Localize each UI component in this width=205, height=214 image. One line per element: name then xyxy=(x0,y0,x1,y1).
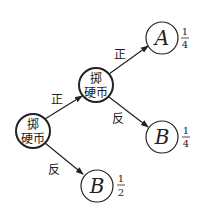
tree-diagram: 正 反 正 反 掷 硬币 掷 硬币 A 1 4 B 1 4 B 1 2 xyxy=(0,0,205,214)
edge-label-middle-leaf-a: 正 xyxy=(114,48,126,62)
edge-label-root-leaf-b2: 反 xyxy=(48,163,60,177)
middle-node: 掷 硬币 xyxy=(79,68,113,102)
middle-label-line1: 掷 xyxy=(90,71,102,86)
root-label-line2: 硬币 xyxy=(21,132,45,146)
leaf-b2: B 1 2 xyxy=(81,170,125,202)
leaf-b2-label: B xyxy=(89,174,105,198)
leaf-a: A 1 4 xyxy=(146,22,189,54)
leaf-b2-prob-num: 1 xyxy=(118,173,124,184)
leaf-a-prob-den: 4 xyxy=(182,39,188,50)
root-node: 掷 硬币 xyxy=(16,114,50,148)
leaf-b1: B 1 4 xyxy=(146,121,190,153)
edge-label-root-middle: 正 xyxy=(51,93,63,107)
leaf-b2-prob-den: 2 xyxy=(118,187,124,198)
leaf-b1-prob-num: 1 xyxy=(183,125,189,136)
edge-label-middle-leaf-b1: 反 xyxy=(112,112,124,126)
leaf-a-label: A xyxy=(153,26,169,50)
middle-label-line2: 硬币 xyxy=(84,86,108,100)
leaf-a-prob-num: 1 xyxy=(182,26,188,37)
root-label-line1: 掷 xyxy=(27,117,39,132)
leaf-b1-prob-den: 4 xyxy=(183,138,189,149)
leaf-b1-label: B xyxy=(154,125,170,149)
